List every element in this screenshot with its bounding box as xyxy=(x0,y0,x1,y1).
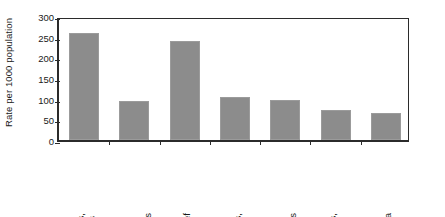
bar xyxy=(119,101,149,140)
plot-area xyxy=(57,18,409,142)
x-axis-category-label-line: ointments xyxy=(287,213,298,217)
x-axis-category-label-line: Pain relief xyxy=(181,213,192,217)
y-axis-tick-mark xyxy=(55,81,60,82)
y-axis-tick-labels: 050100150200250300 xyxy=(20,13,54,143)
bar xyxy=(270,100,300,140)
x-axis-category-label-line: Coughs, xyxy=(327,213,338,217)
x-axis-category-label-line: Vitamins, xyxy=(75,213,86,217)
x-axis-category-label-line: medications xyxy=(142,213,153,217)
y-axis-tick-mark xyxy=(55,40,60,41)
y-axis-tick-mark xyxy=(55,60,60,61)
x-axis-category-label-line: problems, xyxy=(232,213,243,217)
y-axis-tick-label: 200 xyxy=(20,54,54,64)
y-axis-title-label: Rate per 1000 population xyxy=(4,18,15,127)
y-axis-tick-mark xyxy=(55,143,60,144)
y-axis-tick-label: 150 xyxy=(20,75,54,85)
y-axis-tick-mark xyxy=(55,102,60,103)
y-axis-tick-label: 300 xyxy=(20,13,54,23)
y-axis-tick-mark xyxy=(55,19,60,20)
bar xyxy=(321,110,351,140)
bar xyxy=(371,113,401,140)
y-axis-tick-label: 50 xyxy=(20,116,54,126)
x-axis-category-label-line: minerals xyxy=(86,213,97,217)
bar xyxy=(170,41,200,140)
x-axis-category-labels: Vitamins,mineralsHerbal,naturalmedicatio… xyxy=(57,145,409,217)
y-axis-tick-label: 0 xyxy=(20,137,54,147)
y-axis-tick-mark xyxy=(55,122,60,123)
x-axis-category-label-line: Skin xyxy=(276,213,287,217)
bars-layer xyxy=(59,19,408,140)
y-axis-title: Rate per 1000 population xyxy=(0,0,18,145)
x-axis-category-label-line: natural xyxy=(131,213,142,217)
y-axis-tick-label: 100 xyxy=(20,96,54,106)
bar xyxy=(69,33,99,140)
x-axis-category-label-line: Heart xyxy=(221,213,232,217)
bar-chart: Rate per 1000 population 050100150200250… xyxy=(0,0,445,217)
x-axis-category-label-line: Asthma xyxy=(382,213,393,217)
x-axis-category-label-line: blood xyxy=(243,213,254,217)
y-axis-tick-label: 250 xyxy=(20,34,54,44)
x-axis-category-label-line: colds xyxy=(338,213,349,217)
x-axis-category-label-line: Herbal, xyxy=(120,213,131,217)
bar xyxy=(220,97,250,140)
